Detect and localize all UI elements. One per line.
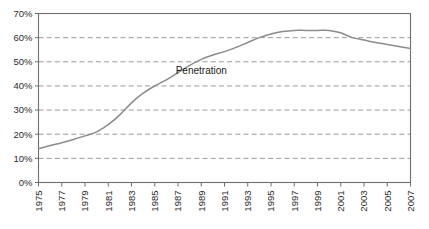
series-annotation-0: Penetration: [176, 65, 227, 76]
y-axis-tick-labels: 70%60%50%40%30%20%10%0%: [13, 8, 33, 188]
x-tick-label-2003: 2003: [358, 191, 369, 212]
y-tick-label-10: 10%: [13, 153, 33, 164]
x-tick-label-1979: 1979: [79, 191, 90, 212]
y-tick-label-70: 70%: [13, 8, 33, 19]
x-tick-label-1991: 1991: [219, 191, 230, 212]
x-tick-label-2005: 2005: [382, 191, 393, 212]
x-tick-label-2007: 2007: [405, 191, 416, 212]
x-tick-label-1983: 1983: [126, 191, 137, 212]
series-annotation-labels: Penetration: [176, 65, 227, 76]
x-tick-label-1995: 1995: [265, 191, 276, 212]
y-tick-label-20: 20%: [13, 129, 33, 140]
gridlines-group: [39, 38, 411, 159]
x-tick-label-1997: 1997: [289, 191, 300, 212]
x-tick-label-1977: 1977: [56, 191, 67, 212]
x-tick-label-1999: 1999: [312, 191, 323, 212]
x-tick-label-1975: 1975: [33, 191, 44, 212]
y-tick-label-50: 50%: [13, 56, 33, 67]
x-axis-tick-labels: 1975197719791981198319851987198919911993…: [33, 191, 416, 212]
series-line-penetration: [39, 30, 411, 148]
x-tick-label-1993: 1993: [242, 191, 253, 212]
y-tick-label-40: 40%: [13, 80, 33, 91]
series-penetration-line: [39, 30, 411, 148]
y-tick-label-60: 60%: [13, 32, 33, 43]
x-axis-ticks: [39, 183, 411, 187]
x-tick-label-1989: 1989: [196, 191, 207, 212]
chart-canvas: 70%60%50%40%30%20%10%0% 1975197719791981…: [0, 0, 429, 229]
x-tick-label-1985: 1985: [149, 191, 160, 212]
y-tick-label-0: 0%: [19, 177, 33, 188]
y-tick-label-30: 30%: [13, 104, 33, 115]
penetration-line-chart: 70%60%50%40%30%20%10%0% 1975197719791981…: [0, 0, 429, 229]
x-tick-label-1981: 1981: [103, 191, 114, 212]
x-tick-label-1987: 1987: [172, 191, 183, 212]
x-tick-label-2001: 2001: [335, 191, 346, 212]
